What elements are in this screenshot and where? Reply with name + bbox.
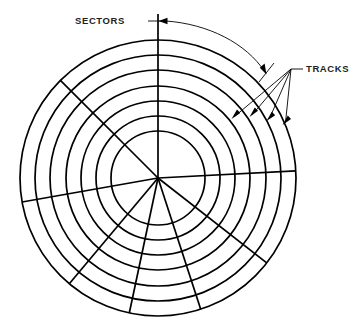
sector-line-288 bbox=[158, 178, 201, 309]
tracks-leader-line-4 bbox=[286, 69, 292, 123]
sector-line-322 bbox=[158, 178, 267, 263]
tracks-arrow-head-1 bbox=[232, 110, 241, 120]
sectors-sweep-arc bbox=[166, 21, 265, 72]
tracks-leader-line-2 bbox=[253, 69, 292, 115]
sector-line-190 bbox=[22, 178, 158, 202]
sectors-arc-end-tick bbox=[259, 63, 274, 82]
diagram-canvas: SECTORS TRACKS bbox=[0, 0, 354, 327]
sectors-label: SECTORS bbox=[75, 15, 125, 26]
sectors-arrow-head-right bbox=[260, 63, 267, 74]
disk-tracks-sectors-diagram: SECTORS TRACKS bbox=[0, 0, 354, 327]
sector-line-357 bbox=[158, 171, 296, 178]
tracks-leader-line-1 bbox=[235, 69, 292, 117]
sector-line-258 bbox=[129, 178, 158, 313]
tracks-callout-group bbox=[232, 69, 304, 125]
tracks-leader-line-3 bbox=[270, 69, 292, 119]
sector-line-135 bbox=[60, 80, 158, 178]
tracks-arrow-head-3 bbox=[267, 112, 276, 121]
tracks-label: TRACKS bbox=[306, 63, 349, 74]
